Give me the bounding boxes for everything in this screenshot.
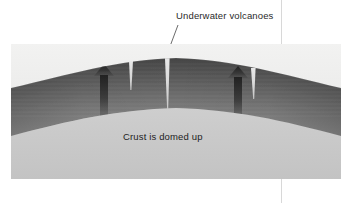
label-crust-is-domed-up: Crust is domed up [123,131,203,142]
illustration-panel: Crust is domed up [11,44,341,179]
cross-section-svg [11,44,341,179]
label-underwater-volcanoes: Underwater volcanoes [176,10,274,21]
diagram-figure: Underwater volcanoes [0,0,353,203]
